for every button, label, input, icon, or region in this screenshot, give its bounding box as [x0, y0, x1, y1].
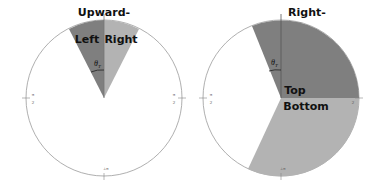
sector-label-top: Top	[284, 84, 306, 97]
diagram-canvas: Upward- Left Right θT π 2 π 2 ±π Right- …	[0, 0, 381, 189]
sector-label-bottom: Bottom	[283, 100, 328, 113]
title: Upward-	[78, 6, 130, 19]
sector-label-right: Right	[104, 33, 137, 46]
title: Right-	[288, 6, 326, 19]
tick-bottom: ±π	[103, 166, 109, 171]
tick-bottom: ±π	[280, 166, 286, 171]
upward-diagram: Upward- Left Right θT π 2 π 2 ±π	[22, 6, 186, 180]
right-diagram: Right- Top Bottom θT π 2 2 ±π	[199, 6, 363, 180]
sector-label-left: Left	[75, 33, 100, 46]
